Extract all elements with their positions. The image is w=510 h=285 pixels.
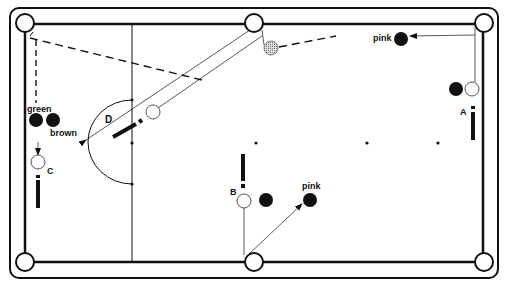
label-brown: brown (50, 128, 77, 138)
label-pink-top: pink (373, 33, 392, 43)
label-green: green (27, 104, 52, 114)
dashed-path-top (279, 36, 336, 47)
shot-a-line (410, 35, 475, 36)
pocket-bottom-right (475, 253, 493, 271)
pocket-top-right (475, 14, 493, 32)
table-drawing: D green brown C B pink pink A (0, 0, 510, 285)
label-d: D (105, 114, 112, 125)
green-ball (29, 113, 43, 127)
pocket-bottom-middle (245, 253, 263, 271)
label-b: B (230, 187, 237, 197)
object-ball-a (449, 82, 463, 96)
cue-stick-d (113, 124, 136, 137)
brown-ball (46, 113, 60, 127)
pink-ball-top (394, 32, 408, 46)
label-pink-bottom: pink (302, 181, 321, 191)
cue-ball-c (31, 155, 45, 169)
d-semicircle (88, 100, 132, 184)
black-spot (436, 141, 439, 144)
label-a: A (460, 107, 467, 117)
shot-d-line-lower (158, 36, 262, 108)
cue-ball-a (465, 82, 479, 96)
label-c: C (47, 166, 54, 176)
pocket-top-left (16, 14, 34, 32)
object-ball-near-b (259, 193, 273, 207)
table-frame (10, 8, 498, 278)
shot-b-line (248, 204, 302, 255)
pocket-top-middle (245, 14, 263, 32)
dashed-path-diagonal (30, 38, 202, 80)
playing-area (25, 24, 483, 262)
cue-ball-d (146, 105, 160, 119)
cue-ball-b (237, 194, 251, 208)
blue-spot (254, 141, 257, 144)
pink-ball-bottom (303, 193, 317, 207)
shaded-object-ball (264, 41, 278, 55)
snooker-diagram: D green brown C B pink pink A (0, 0, 510, 285)
pocket-bottom-left (16, 253, 34, 271)
pink-spot (365, 141, 368, 144)
